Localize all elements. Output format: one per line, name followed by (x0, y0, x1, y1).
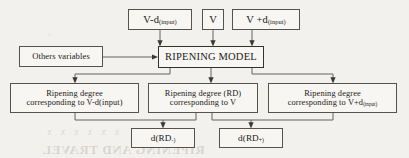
node-ripening-degree-v-line1: Ripening degree (RD) (165, 89, 241, 98)
node-ripening-degree-v[interactable]: Ripening degree (RD) corresponding to V (148, 83, 258, 113)
node-d-rd-minus-subscript: -) (172, 137, 176, 143)
node-ripening-degree-v-minus[interactable]: Ripening degree corresponding to V-d(inp… (10, 83, 139, 113)
node-d-rd-plus-label: d(RD (238, 133, 259, 143)
node-d-rd-plus-subscript: +) (259, 137, 264, 143)
node-input-v-plus-subscript: (input) (268, 18, 286, 25)
node-ripening-degree-v-line2: corresponding to V (170, 98, 236, 107)
link-rd-minus-down (75, 113, 163, 120)
node-input-v-label: V (209, 14, 217, 26)
node-d-rd-plus[interactable]: d(RD+) (219, 128, 283, 148)
node-input-v[interactable]: V (202, 9, 224, 30)
node-ripening-degree-v-minus-line1: Ripening degree (46, 89, 103, 98)
node-d-rd-minus[interactable]: d(RD-) (131, 128, 195, 148)
arrow-model-to-rd-minus (75, 68, 170, 81)
node-ripening-model-label: RIPENING MODEL (165, 51, 257, 63)
node-ripening-model[interactable]: RIPENING MODEL (158, 46, 264, 68)
link-rd-mid-down-right (212, 113, 251, 120)
node-others-variables-label: Others variables (32, 52, 90, 62)
link-rd-mid-down-left (163, 113, 196, 120)
node-d-rd-minus-label: d(RD (151, 133, 172, 143)
node-ripening-degree-v-plus-line2: corresponding to V+d (288, 98, 363, 107)
arrow-model-to-rd-plus (252, 68, 333, 81)
node-ripening-degree-v-plus-subscript: (input) (363, 101, 377, 107)
link-rd-plus-down (251, 113, 333, 120)
node-input-v-minus-subscript: (input) (159, 18, 177, 25)
node-ripening-degree-v-plus-line1: Ripening degree (304, 89, 361, 98)
node-others-variables[interactable]: Others variables (19, 46, 103, 67)
node-input-v-minus[interactable]: V-d(input) (128, 9, 192, 30)
flowchart-diagram: x x x x x x RIPENING AND TRAVEL (0, 0, 409, 158)
node-input-v-minus-label: V-d (143, 14, 159, 25)
node-input-v-plus-label: V +d (246, 14, 268, 25)
node-input-v-plus[interactable]: V +d(input) (232, 9, 300, 30)
node-ripening-degree-v-minus-line2: corresponding to V-d(input) (26, 98, 122, 107)
node-ripening-degree-v-plus[interactable]: Ripening degree corresponding to V+d(inp… (268, 83, 397, 113)
